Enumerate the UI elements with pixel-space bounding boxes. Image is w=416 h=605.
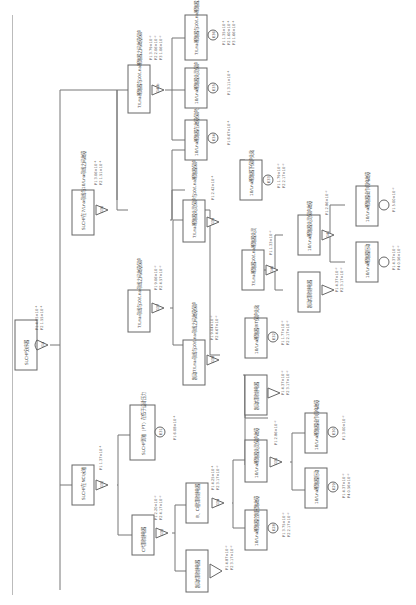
node-G41b: 7/Lna断路器与10/Lna断路器之间故障保护 G41b P1 3.79×10… <box>128 30 164 113</box>
svg-text:10/Lna断路器拒动: 10/Lna断路器拒动 <box>313 470 320 504</box>
svg-text:E31: E31 <box>159 428 163 435</box>
svg-text:制动切除继电器: 制动切除继电器 <box>253 381 260 410</box>
root-event: SLCHF分序器 G4 P1 4.85×10⁻¹ P2 1.55×10⁻¹ <box>15 305 48 370</box>
svg-text:P4 0.56×10⁻²: P4 0.56×10⁻² <box>347 473 351 498</box>
node-E28: 10/Lna断路器控制回路故障 E28 P1 3.75×10⁻² P2 2.17… <box>245 496 291 550</box>
svg-text:SLCHF到箱（PT）在低于设计压力: SLCHF到箱（PT）在低于设计压力 <box>140 392 147 455</box>
svg-text:SLCHF在7/Lna母线与10/Lna母线之间故障: SLCHF在7/Lna母线与10/Lna母线之间故障 <box>80 151 87 230</box>
svg-text:E32: E32 <box>272 333 276 340</box>
node-G34: B、C相切除继电器 G34 P1 4.25×10⁻¹ P2 3.17×10⁻² <box>186 465 224 523</box>
svg-text:B、C相切除继电器: B、C相切除继电器 <box>194 483 201 518</box>
svg-text:10/Lna断路器失灵保护故障: 10/Lna断路器失灵保护故障 <box>306 201 313 251</box>
svg-text:10/Lna断路器操作机构故障: 10/Lna断路器操作机构故障 <box>364 172 371 222</box>
svg-text:制动切除继电器: 制动切除继电器 <box>306 279 313 308</box>
node-G38: 制动7/Lna母线与10/Lna母线之间故障保护 G38 P1 9.04×10⁻… <box>183 302 219 385</box>
svg-text:G32: G32 <box>100 481 104 488</box>
svg-text:P2 2.06×10⁻²: P2 2.06×10⁻² <box>154 35 158 60</box>
svg-text:E34: E34 <box>212 133 216 141</box>
svg-text:E36: E36 <box>212 30 216 38</box>
node-E29b: 10/Lna断路器拒动 P1 4.37×10⁻² P4 0.56×10⁻² <box>356 242 401 282</box>
node-G39: 7/Lna断路器失灵保护与10/Lna断路器保护 G39 P1 2.42×10⁻… <box>183 160 219 242</box>
svg-text:G41: G41 <box>326 231 330 238</box>
svg-text:P1 4.37×10⁻²: P1 4.37×10⁻² <box>342 473 346 498</box>
svg-text:G39: G39 <box>211 217 215 225</box>
svg-text:P1 2.20×10⁻²: P1 2.20×10⁻² <box>154 495 158 520</box>
svg-text:P1 4.37×10⁻²: P1 4.37×10⁻² <box>281 370 285 395</box>
svg-text:G38: G38 <box>211 355 215 363</box>
svg-text:P1 1.33×10⁻²: P1 1.33×10⁻² <box>269 230 273 255</box>
svg-text:P2 1.55×10⁻¹: P2 1.55×10⁻¹ <box>40 305 44 330</box>
svg-text:P2 2.17×10⁻²: P2 2.17×10⁻² <box>286 320 290 345</box>
node-G41: 10/Lna断路器失灵保护故障 G41 P1 2.86×10⁻² <box>298 190 334 255</box>
svg-text:E28: E28 <box>272 523 276 531</box>
svg-text:SLCHF分序器: SLCHF分序器 <box>23 339 30 365</box>
svg-text:10/Lna断路器失灵保护故障: 10/Lna断路器失灵保护故障 <box>253 428 260 478</box>
svg-text:P4 0.56×10⁻²: P4 0.56×10⁻² <box>397 245 401 270</box>
svg-text:P3 1.66×10⁻¹: P3 1.66×10⁻¹ <box>232 20 236 45</box>
node-G37: 7/Lna母线与10/Lna母线之间故障保护 G37 P1 9.06×10⁻² … <box>128 258 164 332</box>
svg-text:G37: G37 <box>156 304 160 311</box>
svg-text:P1 3.11×10⁻¹: P1 3.11×10⁻¹ <box>227 70 231 95</box>
svg-text:P1 4.37×10⁻²: P1 4.37×10⁻² <box>392 245 396 270</box>
node-E31: SLCHF到箱（PT）在低于设计压力 E31 P1 6.08×10⁻¹ <box>130 392 177 460</box>
svg-text:P2 3.17×10⁻²: P2 3.17×10⁻² <box>216 465 220 490</box>
svg-text:P1 5.00×10⁻²: P1 5.00×10⁻² <box>392 187 396 212</box>
svg-text:G34: G34 <box>216 498 220 506</box>
node-G32: SLCHF在NCI水箱 G32 P1 1.37×10⁻¹ <box>72 445 108 505</box>
node-X2: 制动切除继电器 P1 4.37×10⁻² P2 3.17×10⁻² <box>245 370 290 415</box>
svg-text:P1 6.67×10⁻¹: P1 6.67×10⁻¹ <box>227 120 231 145</box>
svg-text:P2 4.67×10⁻²: P2 4.67×10⁻² <box>215 315 219 340</box>
svg-text:P1 1.77×10⁻²: P1 1.77×10⁻² <box>281 320 285 345</box>
svg-text:10/Lna断路器拒动: 10/Lna断路器拒动 <box>364 244 371 278</box>
svg-text:10/Lna断路器BIT保护失效: 10/Lna断路器BIT保护失效 <box>253 304 260 354</box>
svg-text:P1 9.04×10⁻²: P1 9.04×10⁻² <box>210 315 214 340</box>
svg-text:P2 3.17×10⁻²: P2 3.17×10⁻² <box>286 370 290 395</box>
svg-text:P1 4.85×10⁻¹: P1 4.85×10⁻¹ <box>35 305 39 330</box>
svg-text:P2 2.17×10⁻²: P2 2.17×10⁻² <box>287 512 291 537</box>
node-X1: 制动切除继电器 P1 4.87×10⁻² P2 3.17×10⁻² <box>186 545 234 592</box>
svg-text:制动切除继电器: 制动切除继电器 <box>194 559 201 588</box>
svg-text:G35: G35 <box>274 458 278 465</box>
node-X3: 制动切除继电器 P1 4.37×10⁻² P2 3.17×10⁻² <box>298 267 344 312</box>
svg-text:P1 3.00×10⁻²: P1 3.00×10⁻² <box>342 415 346 440</box>
node-E36: 7/Lna断路器与10/Lna断路器之间故障 E36 P1 1.35×10⁻¹ … <box>185 0 236 60</box>
svg-text:E35: E35 <box>212 84 216 91</box>
svg-text:P1 3.06×10⁻¹: P1 3.06×10⁻¹ <box>94 160 98 185</box>
svg-text:P2 3.17×10⁻²: P2 3.17×10⁻² <box>340 267 344 292</box>
svg-text:P1 2.86×10⁻²: P1 2.86×10⁻² <box>325 190 329 215</box>
svg-text:P3 1.06×10⁻²: P3 1.06×10⁻² <box>159 35 163 60</box>
svg-text:G41b: G41b <box>156 83 160 93</box>
svg-text:P1 2.86×10⁻²: P1 2.86×10⁻² <box>274 420 278 445</box>
node-G35: 10/Lna断路器失灵保护故障 G35 P1 2.86×10⁻² <box>245 420 282 482</box>
node-E29: 10/Lna断路器拒动 E29 P1 4.37×10⁻² P4 0.56×10⁻… <box>305 468 351 508</box>
svg-text:P1 4.37×10⁻²: P1 4.37×10⁻² <box>335 267 339 292</box>
node-G40: 7/Lna断路器10/Lna断路器失灵 G40 P1 1.33×10⁻² <box>242 227 278 290</box>
svg-text:7/Lna母线与10/Lna母线之间故障保护: 7/Lna母线与10/Lna母线之间故障保护 <box>136 258 143 328</box>
node-E30: 10/Lna断路器操作机构故障 E30 P1 3.00×10⁻² <box>305 400 346 453</box>
svg-text:7/Lna断路器与10/Lna断路器之间故障: 7/Lna断路器与10/Lna断路器之间故障 <box>193 0 200 55</box>
svg-text:P2 4.17×10⁻²: P2 4.17×10⁻² <box>159 495 163 520</box>
svg-text:P1 1.35×10⁻¹: P1 1.35×10⁻¹ <box>222 20 226 45</box>
svg-text:7/Lna断路器失灵保护与10/Lna断路器保护: 7/Lna断路器失灵保护与10/Lna断路器保护 <box>191 160 198 238</box>
svg-text:P2 3.17×10⁻²: P2 3.17×10⁻² <box>230 545 234 570</box>
node-E33: 10/Lna断路器下保护失效 E33 P1 1.79×10⁻² P2 2.17×… <box>240 149 286 200</box>
svg-text:P1 3.75×10⁻²: P1 3.75×10⁻² <box>282 512 286 537</box>
svg-text:P2 4.57×10⁻²: P2 4.57×10⁻² <box>159 265 163 290</box>
node-G36: SLCHF在7/Lna母线与10/Lna母线之间故障 G36 P1 3.06×1… <box>72 151 108 235</box>
svg-text:G36: G36 <box>100 205 104 213</box>
svg-text:P1 1.37×10⁻¹: P1 1.37×10⁻¹ <box>99 445 103 470</box>
svg-text:P1 9.06×10⁻²: P1 9.06×10⁻² <box>154 265 158 290</box>
svg-text:P1 3.79×10⁻²: P1 3.79×10⁻² <box>149 35 153 60</box>
svg-text:CF切除继电器: CF切除继电器 <box>140 526 147 552</box>
svg-text:10/Lna断路器下保护失效: 10/Lna断路器下保护失效 <box>248 149 255 196</box>
node-G33: CF切除继电器 G33 P1 2.20×10⁻² P2 4.17×10⁻² <box>132 495 168 555</box>
node-E30b: 10/Lna断路器操作机构故障 P1 5.00×10⁻² <box>356 172 396 226</box>
svg-text:E33: E33 <box>267 176 271 183</box>
svg-text:P1 2.42×10⁻¹: P1 2.42×10⁻¹ <box>211 175 215 200</box>
svg-text:P2 1.60×10⁻¹: P2 1.60×10⁻¹ <box>227 20 231 45</box>
svg-text:制动7/Lna母线与10/Lna母线之间故障保护: 制动7/Lna母线与10/Lna母线之间故障保护 <box>191 302 198 380</box>
svg-text:P2 2.17×10⁻²: P2 2.17×10⁻² <box>282 163 286 188</box>
node-E32: 10/Lna断路器BIT保护失效 E32 P1 1.77×10⁻² P2 2.1… <box>245 304 290 358</box>
svg-text:P1 1.79×10⁻²: P1 1.79×10⁻² <box>277 163 281 188</box>
svg-text:10/Lna断路器控制回路故障: 10/Lna断路器控制回路故障 <box>253 496 260 546</box>
